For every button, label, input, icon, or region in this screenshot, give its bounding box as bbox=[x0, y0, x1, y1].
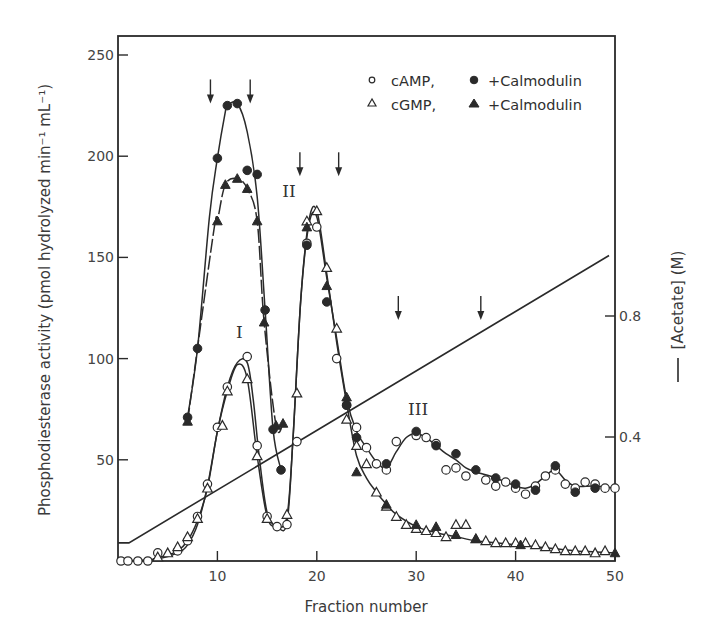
y-tick-label: 150 bbox=[87, 249, 114, 265]
cgmp-point bbox=[600, 546, 610, 555]
camp-point bbox=[561, 480, 569, 488]
axes bbox=[118, 36, 615, 561]
peak-label: I bbox=[236, 322, 243, 342]
cgmp-point bbox=[173, 542, 183, 551]
cgmp-calmodulin-point bbox=[342, 392, 352, 401]
x-tick-label: 30 bbox=[407, 568, 425, 584]
camp-calmodulin-point bbox=[223, 101, 232, 110]
camp-point bbox=[273, 522, 281, 530]
y-tick-label: 250 bbox=[87, 47, 114, 63]
camp-calmodulin-point bbox=[382, 460, 391, 469]
camp-calmodulin-point bbox=[571, 488, 580, 497]
legend: cAMP, +Calmodulin cGMP, +Calmodulin bbox=[368, 73, 582, 113]
cgmp-point bbox=[252, 451, 262, 460]
camp-point bbox=[581, 478, 589, 486]
camp-calmodulin-point bbox=[322, 298, 331, 307]
peak-label: II bbox=[282, 181, 295, 201]
acetate-gradient bbox=[118, 256, 609, 543]
camp-point bbox=[422, 433, 430, 441]
y2-axis-title: [Acetate] (M) bbox=[669, 251, 687, 350]
cgmp-point bbox=[531, 540, 541, 549]
camp-point bbox=[253, 441, 261, 449]
camp-point bbox=[501, 478, 509, 486]
camp-calmodulin-point bbox=[261, 306, 270, 315]
camp-point bbox=[144, 557, 152, 565]
pooling-arrow-head bbox=[296, 167, 303, 176]
cgmp-point bbox=[292, 388, 302, 397]
x-axis-title: Fraction number bbox=[304, 598, 428, 616]
cgmp-calmodulin-point bbox=[278, 419, 288, 428]
cgmp-calmodulin-point bbox=[352, 467, 362, 476]
y2-axis-title-group: [Acetate] (M) bbox=[669, 251, 687, 382]
legend-camp-marker bbox=[369, 77, 375, 83]
camp-point bbox=[462, 472, 470, 480]
camp-point bbox=[293, 437, 301, 445]
pooling-arrow-head bbox=[207, 94, 214, 103]
camp-calmodulin-point bbox=[491, 474, 500, 483]
camp-calmodulin-point bbox=[412, 427, 421, 436]
legend-camp-calmodulin-label: +Calmodulin bbox=[488, 73, 582, 89]
y-axis-title: Phosphodiesterase activity (pmol hydroly… bbox=[36, 84, 54, 516]
cgmp-point bbox=[580, 546, 590, 555]
camp-calmodulin-point bbox=[531, 486, 540, 495]
y2-tick-label: 0.8 bbox=[619, 308, 641, 324]
fit-curves bbox=[118, 102, 615, 561]
camp-calmodulin-point bbox=[277, 466, 286, 475]
camp-point bbox=[442, 466, 450, 474]
data-markers bbox=[117, 99, 620, 565]
cgmp-point bbox=[362, 459, 372, 468]
y2-axis-ticks: 0.40.8 bbox=[605, 308, 641, 445]
legend-cgmp-calmodulin-label: +Calmodulin bbox=[488, 97, 582, 113]
cgmp-point bbox=[332, 323, 342, 332]
y-tick-label: 200 bbox=[87, 148, 114, 164]
cgmp-calmodulin-point bbox=[411, 520, 421, 529]
cgmp-point bbox=[461, 520, 471, 529]
camp-point bbox=[124, 557, 132, 565]
camp-calmodulin-point bbox=[243, 166, 252, 175]
cgmp-point bbox=[481, 536, 491, 545]
cgmp-point bbox=[282, 510, 292, 519]
cgmp-calmodulin-point bbox=[213, 216, 223, 225]
cgmp-calmodulin-point bbox=[322, 281, 332, 290]
x-tick-label: 40 bbox=[507, 568, 525, 584]
cgmp-point bbox=[421, 526, 431, 535]
cgmp-point bbox=[401, 520, 411, 529]
x-tick-label: 10 bbox=[208, 568, 226, 584]
pooling-arrow-head bbox=[335, 167, 342, 176]
camp-point bbox=[601, 484, 609, 492]
legend-cgmp-label: cGMP, bbox=[391, 97, 436, 113]
y-tick-label: 50 bbox=[96, 452, 114, 468]
cgmp-point bbox=[501, 538, 511, 547]
camp-calmodulin-point bbox=[511, 480, 520, 489]
camp-calmodulin-point bbox=[472, 466, 481, 475]
x-tick-label: 50 bbox=[606, 568, 624, 584]
camp-calmodulin-point bbox=[432, 441, 441, 450]
pooling-arrow-head bbox=[395, 311, 402, 320]
camp-point bbox=[372, 460, 380, 468]
camp-point bbox=[541, 472, 549, 480]
x-tick-label: 20 bbox=[308, 568, 326, 584]
camp-point bbox=[362, 443, 370, 451]
camp-point bbox=[521, 490, 529, 498]
camp-calmodulin-point bbox=[551, 462, 560, 471]
camp-point bbox=[392, 437, 400, 445]
phosphodiesterase-chart: 1020304050 50100150200250 0.40.8 Fractio… bbox=[0, 0, 718, 639]
camp-point bbox=[482, 476, 490, 484]
cgmp-calmodulin-point bbox=[221, 180, 231, 189]
camp-calmodulin-point bbox=[233, 99, 242, 108]
cgmp-calmodulin-point bbox=[431, 522, 441, 531]
camp-calmodulin-point bbox=[213, 154, 222, 163]
legend-camp-label: cAMP, bbox=[391, 73, 435, 89]
acetate-line bbox=[118, 256, 609, 543]
camp-calmodulin-point bbox=[303, 241, 312, 250]
y2-tick-label: 0.4 bbox=[619, 429, 641, 445]
pooling-arrows bbox=[207, 79, 484, 320]
camp-calmodulin-point bbox=[452, 449, 461, 458]
legend-cgmp-calmodulin-marker bbox=[469, 99, 479, 107]
plot-frame bbox=[118, 36, 615, 561]
cgmp-point bbox=[322, 263, 332, 272]
camp-calmodulin-point bbox=[591, 484, 600, 493]
camp-point bbox=[134, 557, 142, 565]
camp-point bbox=[283, 520, 291, 528]
camp-point bbox=[352, 423, 360, 431]
